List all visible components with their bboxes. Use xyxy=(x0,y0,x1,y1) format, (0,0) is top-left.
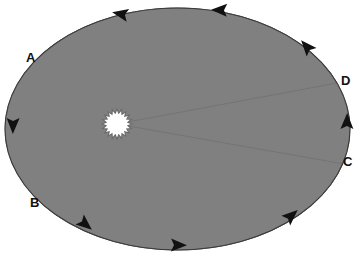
orbit-point-label-c: C xyxy=(343,155,352,168)
orbital-diagram: A B C D xyxy=(0,0,360,258)
orbit-canvas xyxy=(0,0,360,258)
orbit-point-label-d: D xyxy=(341,74,350,87)
sector-group xyxy=(5,8,350,250)
orbit-point-label-a: A xyxy=(26,51,35,64)
orbit-point-label-b: B xyxy=(30,196,39,209)
